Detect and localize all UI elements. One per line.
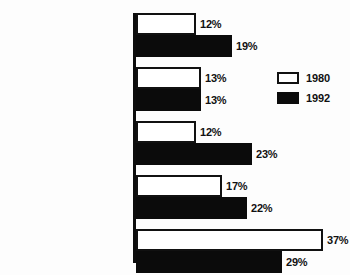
legend-entry-1980: 1980 [277, 70, 330, 86]
legend-swatch-white-square-icon [277, 72, 299, 84]
legend: 1980 1992 [277, 70, 330, 110]
legend-swatch-black-square-icon [277, 92, 299, 104]
legend-label: 1992 [306, 92, 330, 104]
legend-label: 1980 [306, 72, 330, 84]
legend-entry-1992: 1992 [277, 90, 330, 106]
category-labels: Sub-Saharan Africa East Asia & Pacific S… [0, 13, 350, 263]
bar-chart: 12% 19% 13% 13% 12% [0, 0, 350, 275]
